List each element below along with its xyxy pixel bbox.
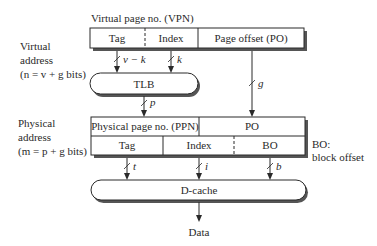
- data-output-label: Data: [189, 226, 210, 238]
- virtual-address-label-3: (n = v + g bits): [20, 68, 86, 81]
- virtual-address-label-1: Virtual: [20, 40, 51, 52]
- ppn-field: Physical page no. (PPN): [91, 120, 199, 133]
- block-offset-field: BO: [262, 139, 277, 151]
- address-translation-diagram: Virtual address (n = v + g bits) Virtual…: [0, 0, 377, 246]
- physical-po-field: PO: [245, 120, 259, 132]
- width-t: t: [133, 160, 137, 172]
- physical-index-field: Index: [186, 139, 212, 151]
- vtag-to-tlb-arrow: [114, 51, 120, 73]
- vpn-caption: Virtual page no. (VPN): [91, 12, 194, 25]
- width-g: g: [258, 77, 264, 89]
- bo-legend-1: BO:: [312, 138, 330, 150]
- dcache-label: D-cache: [181, 184, 218, 196]
- data-output-arrow: [196, 202, 202, 222]
- po-to-physical-arrow: [249, 51, 255, 117]
- width-p: p: [149, 96, 156, 108]
- page-offset-field: Page offset (PO): [214, 32, 287, 45]
- width-k: k: [177, 53, 183, 65]
- virtual-index-field: Index: [158, 32, 184, 44]
- bo-legend-2: block offset: [312, 151, 364, 163]
- tlb-label: TLB: [134, 78, 155, 90]
- virtual-tag-field: Tag: [109, 32, 126, 44]
- width-i: i: [205, 160, 208, 172]
- ptag-to-dcache-arrow: [124, 158, 130, 180]
- width-b: b: [276, 160, 282, 172]
- vindex-to-tlb-arrow: [168, 51, 174, 73]
- tlb-to-ppn-arrow: [141, 96, 147, 117]
- physical-address-label-3: (m = p + g bits): [18, 145, 87, 158]
- physical-address-label-1: Physical: [18, 117, 55, 129]
- width-v-minus-k: v − k: [123, 53, 147, 65]
- bo-to-dcache-arrow: [267, 158, 273, 180]
- physical-address-label-2: address: [18, 131, 51, 143]
- pindex-to-dcache-arrow: [196, 158, 202, 180]
- physical-tag-field: Tag: [119, 139, 136, 151]
- virtual-address-label-2: address: [20, 54, 53, 66]
